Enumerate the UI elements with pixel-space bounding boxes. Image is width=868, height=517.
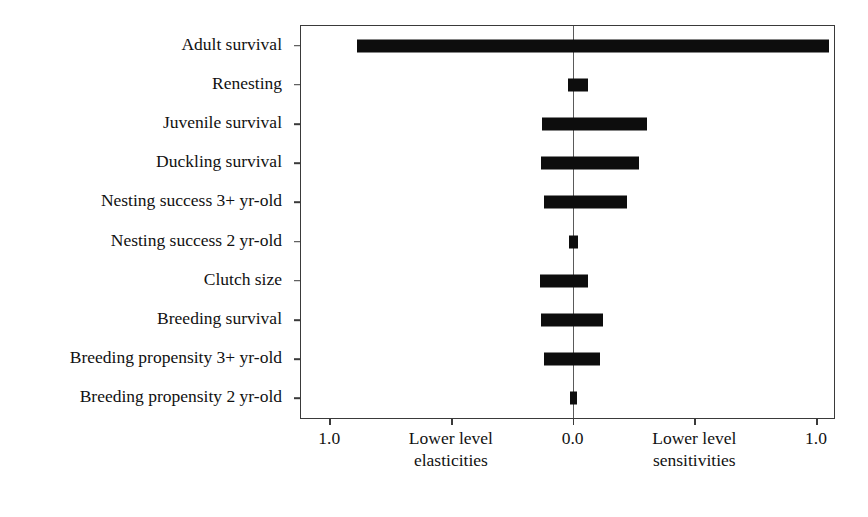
x-axis-tick-label: 1.0 [805, 428, 827, 449]
bar [544, 196, 627, 209]
y-axis-tick [294, 319, 301, 321]
x-axis-group-label-sensitivities-line2: sensitivities [652, 450, 736, 472]
x-axis-group-label-elasticities: Lower levelelasticities [409, 428, 493, 472]
bar [542, 118, 647, 131]
x-axis-tick-label: 1.0 [318, 428, 340, 449]
y-axis-label: Breeding propensity 3+ yr-old [70, 349, 282, 367]
bar [357, 39, 829, 52]
bar [568, 78, 589, 91]
x-axis-group-label-sensitivities: Lower levelsensitivities [652, 428, 736, 472]
y-axis-tick [294, 45, 301, 47]
y-axis-label: Renesting [212, 75, 282, 93]
y-axis-label: Breeding propensity 2 yr-old [80, 389, 282, 407]
y-axis-label: Nesting success 2 yr-old [111, 232, 282, 250]
y-axis-label: Juvenile survival [163, 114, 282, 132]
y-axis-tick [294, 162, 301, 164]
y-axis-label: Duckling survival [156, 153, 282, 171]
y-axis-tick [294, 280, 301, 282]
y-axis-tick [294, 202, 301, 204]
bar [570, 392, 577, 405]
y-axis-label: Clutch size [204, 271, 282, 289]
y-axis-label: Nesting success 3+ yr-old [101, 193, 282, 211]
bar [569, 235, 579, 248]
x-axis-group-label-sensitivities-line1: Lower level [652, 428, 736, 450]
tornado-chart-figure: Adult survivalRenestingJuvenile survival… [0, 0, 868, 517]
plot-area [300, 25, 835, 419]
bar [541, 157, 640, 170]
y-axis-tick [294, 398, 301, 400]
y-axis-label: Adult survival [181, 36, 282, 54]
y-axis-tick [294, 84, 301, 86]
bar [540, 274, 589, 287]
bar [541, 314, 603, 327]
x-axis-tick-label: 0.0 [562, 428, 584, 449]
x-axis-group-label-elasticities-line2: elasticities [409, 450, 493, 472]
y-axis-category-labels: Adult survivalRenestingJuvenile survival… [0, 25, 292, 419]
x-axis-labels: 1.00.01.0Lower levelelasticitiesLower le… [300, 424, 835, 494]
x-axis-group-label-elasticities-line1: Lower level [409, 428, 493, 450]
y-axis-tick [294, 241, 301, 243]
y-axis-tick [294, 123, 301, 125]
y-axis-label: Breeding survival [157, 310, 282, 328]
y-axis-tick [294, 358, 301, 360]
bar [544, 353, 600, 366]
